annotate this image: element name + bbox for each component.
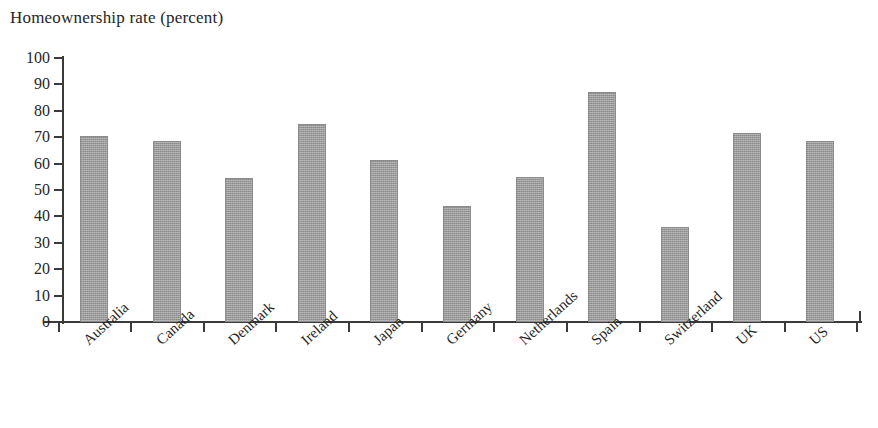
bar	[516, 177, 544, 322]
y-axis-tick-label: 80	[6, 103, 50, 119]
x-axis-tick	[275, 322, 277, 332]
plot-area	[62, 58, 860, 322]
y-axis-tick-label: 90	[6, 76, 50, 92]
bar	[806, 141, 834, 322]
bar	[733, 133, 761, 322]
bar	[225, 178, 253, 322]
x-axis-tick	[639, 322, 641, 332]
x-axis-tick	[856, 322, 858, 332]
x-axis-tick	[493, 322, 495, 332]
bar	[153, 141, 181, 322]
bar	[661, 227, 689, 322]
x-axis-tick	[566, 322, 568, 332]
bar	[80, 136, 108, 322]
y-axis-tick-label: 40	[6, 208, 50, 224]
chart-title: Homeownership rate (percent)	[10, 8, 223, 28]
homeownership-bar-chart: Homeownership rate (percent) 01020304050…	[0, 0, 878, 428]
bar	[370, 160, 398, 322]
x-axis-tick	[130, 322, 132, 332]
x-axis-label-us: US	[806, 323, 831, 348]
bar	[443, 206, 471, 322]
y-axis-tick-label: 20	[6, 261, 50, 277]
bar	[588, 92, 616, 322]
y-axis-tick-label: 60	[6, 156, 50, 172]
y-axis-tick-label: 70	[6, 129, 50, 145]
y-axis-tick-label: 10	[6, 288, 50, 304]
x-axis-tick	[784, 322, 786, 332]
x-axis-label-uk: UK	[733, 321, 760, 347]
x-axis-tick	[711, 322, 713, 332]
y-axis-tick-label: 30	[6, 235, 50, 251]
y-axis-tick-label: 50	[6, 182, 50, 198]
y-axis-tick-label: 100	[6, 50, 50, 66]
x-axis-tick	[58, 322, 60, 332]
x-axis-tick	[348, 322, 350, 332]
bar	[298, 124, 326, 322]
x-axis-tick	[421, 322, 423, 332]
x-axis-tick	[203, 322, 205, 332]
y-axis-tick-label: 0	[6, 314, 50, 330]
